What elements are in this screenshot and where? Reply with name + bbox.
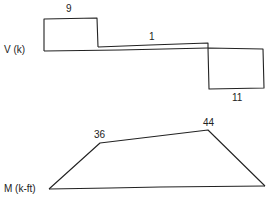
- shear-baseline: [44, 48, 208, 51]
- shear-value-11: 11: [232, 93, 242, 103]
- moment-value-44: 44: [203, 118, 214, 128]
- shear-region-negative-11: [208, 48, 264, 89]
- shear-axis-label: V (k): [4, 45, 25, 55]
- moment-baseline: [49, 186, 265, 189]
- shear-region-positive-9: [44, 18, 98, 51]
- shear-region-positive-1: [98, 43, 208, 48]
- moment-curve: [49, 130, 265, 189]
- moment-axis-label: M (k-ft): [4, 184, 36, 194]
- moment-value-36: 36: [94, 130, 105, 140]
- shear-value-1: 1: [149, 32, 155, 42]
- shear-value-9: 9: [66, 4, 72, 14]
